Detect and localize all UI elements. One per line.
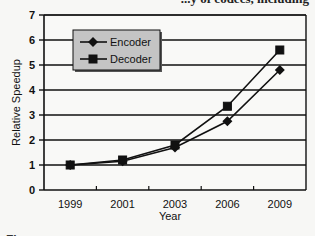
- legend-label-decoder: Decoder: [110, 53, 152, 65]
- x-tick-label: 2003: [163, 198, 187, 210]
- y-tick-label: 6: [29, 34, 35, 46]
- decoder-square-marker: [276, 46, 284, 54]
- y-tick-label: 1: [29, 159, 35, 171]
- x-tick-label: 2006: [215, 198, 239, 210]
- legend-square-icon: [89, 55, 97, 63]
- y-tick-label: 4: [29, 84, 36, 96]
- y-axis-title: Relative Speedup: [10, 59, 22, 146]
- y-tick-label: 3: [29, 109, 35, 121]
- x-tick-label: 2009: [268, 198, 292, 210]
- x-tick-label: 2001: [110, 198, 134, 210]
- x-axis-title: Year: [159, 210, 182, 222]
- speedup-line-chart: 0123456719992001200320062009YearRelative…: [0, 0, 315, 236]
- y-tick-label: 2: [29, 134, 35, 146]
- decoder-square-marker: [223, 102, 231, 110]
- decoder-square-marker: [119, 156, 127, 164]
- decoder-square-marker: [66, 161, 74, 169]
- y-tick-label: 5: [29, 59, 35, 71]
- y-tick-label: 0: [29, 184, 35, 196]
- decoder-square-marker: [171, 141, 179, 149]
- x-tick-label: 1999: [58, 198, 82, 210]
- y-tick-label: 7: [29, 9, 35, 21]
- legend-label-encoder: Encoder: [110, 36, 151, 48]
- bottom-caption-fragment: Figure: [6, 233, 43, 236]
